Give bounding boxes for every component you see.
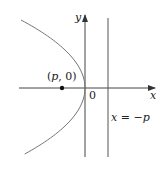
directrix-label: x = −p [111, 111, 150, 124]
x-axis-label: x [150, 89, 157, 102]
focus-point [60, 86, 64, 90]
focus-label: (p, 0) [47, 70, 77, 83]
parabola-diagram: y x 0 (p, 0) x = −p [0, 0, 159, 169]
origin-label: 0 [89, 89, 96, 102]
parabola-curve [21, 20, 85, 154]
y-axis-label: y [74, 11, 82, 24]
